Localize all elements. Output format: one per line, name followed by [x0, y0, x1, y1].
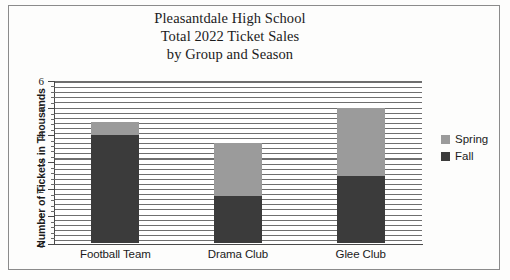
bar-segment-fall [337, 176, 385, 244]
y-minor-tick [51, 233, 55, 234]
y-minor-tick [51, 151, 55, 152]
y-minor-tick [51, 157, 55, 158]
y-minor-tick [51, 86, 55, 87]
x-axis-line [54, 244, 423, 245]
y-minor-tick [51, 238, 55, 239]
chart-title-line-1: Pleasantdale High School [0, 9, 460, 27]
y-tick-label-2: 2 [30, 183, 44, 195]
legend-swatch-fall [441, 152, 450, 161]
y-tick-label-0: 0 [30, 238, 44, 250]
chart-title-line-3: by Group and Season [0, 45, 460, 63]
y-minor-tick [51, 114, 55, 115]
bar-segment-spring [337, 108, 385, 176]
y-tick-5 [48, 108, 55, 109]
bar-drama-club [214, 143, 262, 243]
y-minor-tick [51, 179, 55, 180]
y-minor-tick [51, 124, 55, 125]
y-minor-tick [51, 146, 55, 147]
y-tick-label-6: 6 [30, 75, 44, 87]
y-tick-label-3: 3 [30, 156, 44, 168]
x-axis-label-drama-club: Drama Club [173, 248, 303, 260]
legend-item-spring: Spring [441, 131, 488, 148]
y-tick-2 [48, 189, 55, 190]
y-tick-label-4: 4 [30, 129, 44, 141]
legend-item-fall: Fall [441, 148, 488, 165]
y-minor-tick [51, 92, 55, 93]
y-tick-3 [48, 162, 55, 163]
chart-figure: Pleasantdale High School Total 2022 Tick… [0, 0, 510, 280]
bar-football-team [91, 122, 139, 244]
legend-label-spring: Spring [455, 134, 488, 146]
legend-swatch-spring [441, 135, 450, 144]
bar-segment-fall [91, 135, 139, 243]
y-minor-tick [51, 227, 55, 228]
y-minor-tick [51, 97, 55, 98]
y-minor-tick [51, 119, 55, 120]
y-minor-tick [51, 168, 55, 169]
y-minor-tick [51, 130, 55, 131]
y-minor-tick [51, 206, 55, 207]
y-minor-tick [51, 103, 55, 104]
y-tick-label-1: 1 [30, 210, 44, 222]
chart-title-line-2: Total 2022 Ticket Sales [0, 27, 460, 45]
x-axis-label-football-team: Football Team [50, 248, 180, 260]
y-minor-tick [51, 211, 55, 212]
y-tick-0 [48, 244, 55, 245]
y-minor-tick [51, 184, 55, 185]
chart-legend: SpringFall [441, 131, 488, 165]
bar-segment-fall [214, 196, 262, 243]
legend-label-fall: Fall [455, 151, 474, 163]
bar-segment-spring [214, 143, 262, 196]
y-minor-tick [51, 141, 55, 142]
x-axis-label-glee-club: Glee Club [296, 248, 426, 260]
bar-glee-club [337, 108, 385, 243]
chart-title: Pleasantdale High School Total 2022 Tick… [0, 9, 460, 63]
y-tick-label-5: 5 [30, 102, 44, 114]
y-minor-tick [51, 200, 55, 201]
bar-segment-spring [91, 122, 139, 136]
y-minor-tick [51, 173, 55, 174]
y-tick-4 [48, 135, 55, 136]
y-minor-tick [51, 222, 55, 223]
y-tick-1 [48, 216, 55, 217]
y-minor-tick [51, 195, 55, 196]
y-tick-6 [48, 81, 55, 82]
